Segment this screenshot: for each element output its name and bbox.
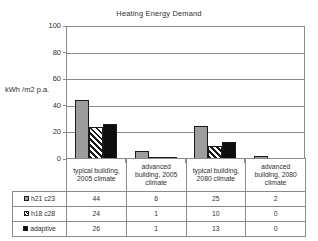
table-cell-value: 24	[67, 207, 127, 222]
plot-area	[66, 26, 305, 159]
column-header: typical building, 2005 climate	[67, 159, 127, 192]
bar	[89, 127, 103, 159]
y-axis-tick: 80	[53, 48, 66, 58]
column-header: typical building, 2080 climate	[186, 159, 246, 192]
table-cell-value: 10	[186, 207, 246, 222]
bars	[66, 26, 126, 159]
chart-title: Heating Energy Demand	[0, 9, 318, 18]
table-header-row: typical building, 2005 climate advanced …	[13, 159, 306, 192]
table-cell-value: 0	[246, 222, 306, 237]
table-cell-value: 6	[126, 192, 186, 207]
legend-swatch-icon	[23, 226, 28, 231]
legend-cell: h21 c23	[13, 192, 67, 207]
column-header: advanced building, 2005 climate	[126, 159, 186, 192]
table-cell-value: 1	[126, 222, 186, 237]
y-axis-tick: 40	[53, 101, 66, 111]
legend-label: h21 c23	[31, 195, 55, 202]
y-axis-tick-label: 80	[53, 48, 61, 58]
bar-group	[126, 26, 186, 159]
table-cell-value: 1	[126, 207, 186, 222]
legend-label: h18 c28	[31, 210, 55, 217]
bar	[103, 124, 117, 159]
table-row: h18 c28241100	[13, 207, 306, 222]
table-cell-value: 2	[246, 192, 306, 207]
y-axis-tick-label: 20	[53, 127, 61, 137]
legend-swatch-icon	[24, 211, 29, 216]
bar-group	[186, 26, 246, 159]
y-axis-tick: 100	[48, 21, 66, 31]
table-row: h21 c23446252	[13, 192, 306, 207]
y-axis-tick: 60	[53, 74, 66, 84]
bar	[194, 126, 208, 159]
bars	[245, 26, 305, 159]
y-axis-ticks: 100806040200	[0, 26, 66, 159]
y-axis-tick-label: 60	[53, 74, 61, 84]
legend-label: adaptive	[30, 225, 56, 232]
bar	[75, 100, 89, 159]
table-cell-value: 25	[186, 192, 246, 207]
table-cell-value: 13	[186, 222, 246, 237]
table-row: adaptive261130	[13, 222, 306, 237]
column-header: advanced building, 2080 climate	[246, 159, 306, 192]
bar-group	[245, 26, 305, 159]
legend-swatch-icon	[24, 196, 29, 201]
bar	[222, 142, 236, 159]
legend-corner	[13, 159, 67, 192]
bar	[208, 146, 222, 159]
table-body: h21 c23446252h18 c28241100adaptive261130	[13, 192, 306, 237]
table-cell-value: 26	[67, 222, 127, 237]
legend-cell: h18 c28	[13, 207, 67, 222]
y-axis-tick: 20	[53, 127, 66, 137]
table-cell-value: 0	[246, 207, 306, 222]
y-axis-tick-label: 100	[48, 21, 61, 31]
data-table: typical building, 2005 climate advanced …	[12, 158, 306, 237]
bars	[126, 26, 186, 159]
y-axis-tick-label: 40	[53, 101, 61, 111]
table-cell-value: 44	[67, 192, 127, 207]
chart-container: Heating Energy Demand kWh /m2 p.a. 10080…	[0, 0, 318, 241]
bars	[186, 26, 246, 159]
bar-groups	[66, 26, 305, 159]
bar-group	[66, 26, 126, 159]
legend-cell: adaptive	[13, 222, 67, 237]
